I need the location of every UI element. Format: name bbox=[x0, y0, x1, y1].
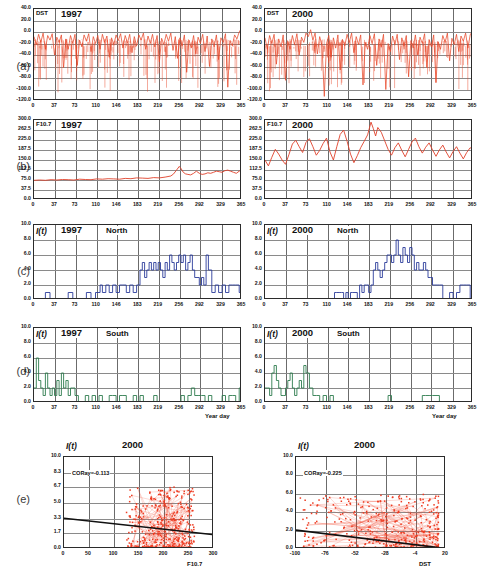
yaxis-tick-label: 112.5 bbox=[18, 166, 31, 171]
scatter-point bbox=[335, 539, 337, 541]
xaxis-tick-label: 250 bbox=[184, 551, 193, 556]
scatter-point bbox=[304, 541, 306, 543]
scatter-point bbox=[393, 544, 395, 546]
scatter-point bbox=[360, 507, 362, 509]
scatter-point bbox=[327, 501, 329, 503]
yaxis-ticks-a_right: 40.020.00.0-20.0-40.0-60.0-80.0-100.0-12… bbox=[233, 8, 262, 100]
xaxis-tick-label: 365 bbox=[468, 202, 477, 207]
yaxis-tick-label: 0.0 bbox=[255, 399, 262, 404]
scatter-point bbox=[424, 508, 426, 510]
scatter-point bbox=[435, 528, 437, 530]
scatter-point bbox=[161, 539, 163, 541]
yaxis-ticks-b_left: 300.0262.5225.0187.5150.0112.575.037.50.… bbox=[2, 119, 31, 199]
scatter-point bbox=[437, 540, 439, 542]
yaxis-tick-label: 6.0 bbox=[286, 490, 293, 495]
yaxis-tick-label: 2.0 bbox=[286, 527, 293, 532]
scatter-point bbox=[135, 515, 137, 517]
scatter-point bbox=[157, 521, 159, 523]
scatter-point bbox=[368, 527, 370, 529]
scatter-point bbox=[362, 506, 364, 508]
scatter-point bbox=[129, 517, 131, 519]
scatter-point bbox=[155, 539, 157, 541]
yaxis-tick-label: -120.0 bbox=[247, 97, 262, 102]
scatter-point bbox=[380, 495, 382, 497]
xaxis-tick-label: 146 bbox=[112, 405, 121, 410]
scatter-point bbox=[126, 512, 128, 514]
scatter-point bbox=[436, 507, 438, 509]
scatter-point bbox=[391, 532, 393, 534]
scatter-point bbox=[188, 523, 190, 525]
scatter-point bbox=[162, 520, 164, 522]
yaxis-tick-label: -20.0 bbox=[250, 40, 262, 45]
scatter-point bbox=[363, 512, 365, 514]
scatter-point bbox=[308, 544, 310, 546]
scatter-point bbox=[187, 533, 189, 535]
panel-tag-c_right: I(t) bbox=[266, 226, 279, 236]
yaxis-ticks-e_left: 10.08.36.75.03.31.70.0 bbox=[32, 456, 61, 548]
xaxis-tick-label: 0 bbox=[32, 302, 35, 307]
data-layer-d_right bbox=[265, 328, 472, 402]
yaxis-tick-label: 0.0 bbox=[255, 28, 262, 33]
scatter-point bbox=[307, 524, 309, 526]
scatter-point bbox=[429, 512, 431, 514]
scatter-point bbox=[329, 532, 331, 534]
scatter-point bbox=[345, 547, 347, 548]
yaxis-tick-label: 0.0 bbox=[24, 296, 31, 301]
yaxis-ticks-c_left: 10.08.06.04.02.00.0 bbox=[2, 224, 31, 299]
scatter-point bbox=[435, 536, 437, 538]
scatter-point bbox=[160, 522, 162, 524]
scatter-point bbox=[193, 527, 195, 529]
scatter-point bbox=[427, 504, 429, 506]
yaxis-ticks-a_left: 40.020.00.0-20.0-40.0-60.0-80.0-100.0-12… bbox=[2, 8, 31, 100]
scatter-point bbox=[129, 501, 131, 503]
series-path bbox=[34, 166, 241, 180]
scatter-point bbox=[191, 543, 193, 545]
scatter-point bbox=[431, 537, 433, 539]
xaxis-tick-label: -76 bbox=[321, 551, 329, 556]
scatter-point bbox=[140, 521, 142, 523]
xaxis-tick-label: 146 bbox=[112, 302, 121, 307]
scatter-point bbox=[165, 504, 167, 506]
xaxis-tick-label: 292 bbox=[426, 103, 435, 108]
xaxis-tick-label: 73 bbox=[303, 202, 309, 207]
scatter-point bbox=[426, 535, 428, 537]
xaxis-tick-label: 37 bbox=[51, 103, 57, 108]
scatter-point bbox=[405, 537, 407, 539]
panel-a_right: 40.020.00.0-20.0-40.0-60.0-80.0-100.0-12… bbox=[264, 8, 472, 100]
yaxis-tick-label: 8.0 bbox=[24, 236, 31, 241]
scatter-point bbox=[132, 522, 134, 524]
plot-area-b_left bbox=[33, 119, 241, 199]
scatter-point bbox=[181, 506, 183, 508]
scatter-point bbox=[174, 546, 176, 548]
xaxis-tick-label: 110 bbox=[92, 202, 100, 207]
scatter-point bbox=[351, 526, 353, 528]
panel-c_left: 10.08.06.04.02.00.0037731101461832192562… bbox=[33, 224, 241, 299]
scatter-point bbox=[385, 533, 387, 535]
yaxis-tick-label: 10.0 bbox=[283, 453, 293, 458]
scatter-point bbox=[329, 497, 331, 499]
xaxis-tick-label: 292 bbox=[426, 202, 435, 207]
xaxis-tick-label: 37 bbox=[282, 405, 288, 410]
scatter-point bbox=[386, 507, 388, 509]
scatter-point bbox=[429, 522, 431, 524]
scatter-point bbox=[137, 488, 139, 490]
scatter-point bbox=[173, 518, 175, 520]
scatter-point bbox=[191, 541, 193, 543]
xaxis-tick-label: 0 bbox=[32, 202, 35, 207]
scatter-point bbox=[162, 525, 164, 527]
scatter-point bbox=[175, 496, 177, 498]
scatter-point bbox=[157, 534, 159, 536]
scatter-point bbox=[382, 547, 384, 548]
plot-area-d_right bbox=[264, 327, 472, 402]
scatter-point bbox=[180, 547, 182, 549]
scatter-point bbox=[182, 537, 184, 539]
scatter-point bbox=[388, 495, 390, 497]
scatter-point bbox=[313, 545, 315, 547]
scatter-point bbox=[399, 498, 401, 500]
scatter-point bbox=[419, 541, 421, 543]
xaxis-tick-label: 365 bbox=[237, 405, 246, 410]
scatter-point bbox=[157, 539, 159, 541]
scatter-point bbox=[179, 537, 181, 539]
scatter-point bbox=[318, 499, 320, 501]
scatter-point bbox=[176, 547, 178, 548]
